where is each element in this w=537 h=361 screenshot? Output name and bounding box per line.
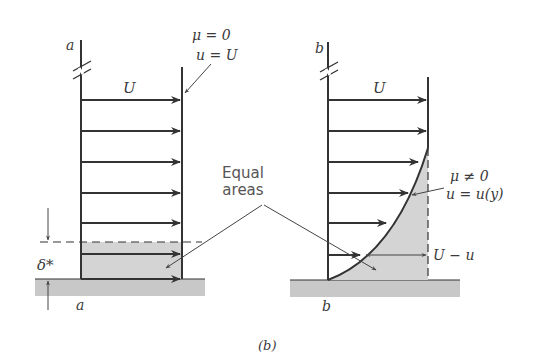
ground-a [35, 279, 205, 296]
figure-caption: (b) [258, 338, 276, 353]
condition-mu-a: μ = 0 [192, 27, 231, 43]
equal-areas-label-line2: areas [222, 181, 263, 199]
equal-areas-arrow-right [264, 205, 376, 270]
leader-arrow-a [185, 64, 211, 93]
displacement-label: δ* [37, 256, 54, 274]
station-label-b-top: b [315, 40, 324, 56]
equal-areas-label-line1: Equal [222, 164, 264, 182]
station-label-b-bottom: b [322, 298, 331, 314]
panel-a: a a U δ* μ = 0 u = U [35, 27, 239, 313]
velocity-label-b: U [373, 79, 387, 97]
deficit-label: U − u [433, 247, 474, 263]
equal-areas-arrow-left [166, 205, 262, 268]
station-label-a-top: a [66, 37, 74, 53]
condition-mu-b: μ ≠ 0 [450, 168, 489, 184]
ground-b [290, 280, 460, 297]
boundary-layer-displacement-diagram: a a U δ* μ = 0 u = U [0, 0, 537, 361]
deficit-region-b [328, 148, 428, 280]
condition-u-a: u = U [196, 47, 239, 63]
station-label-a-bottom: a [76, 297, 84, 313]
condition-u-b: u = u(y) [446, 186, 504, 202]
displacement-region-a [81, 242, 182, 279]
velocity-label-a: U [123, 79, 137, 97]
panel-b: U − u b b U μ ≠ 0 u = u(y) [290, 40, 504, 314]
